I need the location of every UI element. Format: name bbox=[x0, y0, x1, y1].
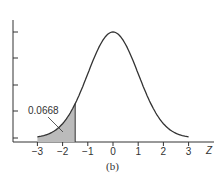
svg-text:−3: −3 bbox=[32, 146, 44, 157]
normal-curve-chart: 0.0668 −3−2−10123 Z (b) bbox=[0, 0, 222, 175]
svg-text:0: 0 bbox=[110, 146, 116, 157]
normal-curve bbox=[37, 32, 188, 137]
svg-text:−2: −2 bbox=[57, 146, 69, 157]
y-ticks bbox=[13, 32, 18, 138]
x-tick-labels: −3−2−10123 bbox=[32, 146, 192, 157]
svg-text:3: 3 bbox=[186, 146, 192, 157]
svg-text:2: 2 bbox=[161, 146, 167, 157]
svg-text:1: 1 bbox=[135, 146, 141, 157]
svg-text:−1: −1 bbox=[82, 146, 94, 157]
figure-caption: (b) bbox=[106, 160, 119, 173]
annotation-label: 0.0668 bbox=[28, 105, 59, 116]
x-axis-label: Z bbox=[205, 145, 213, 156]
